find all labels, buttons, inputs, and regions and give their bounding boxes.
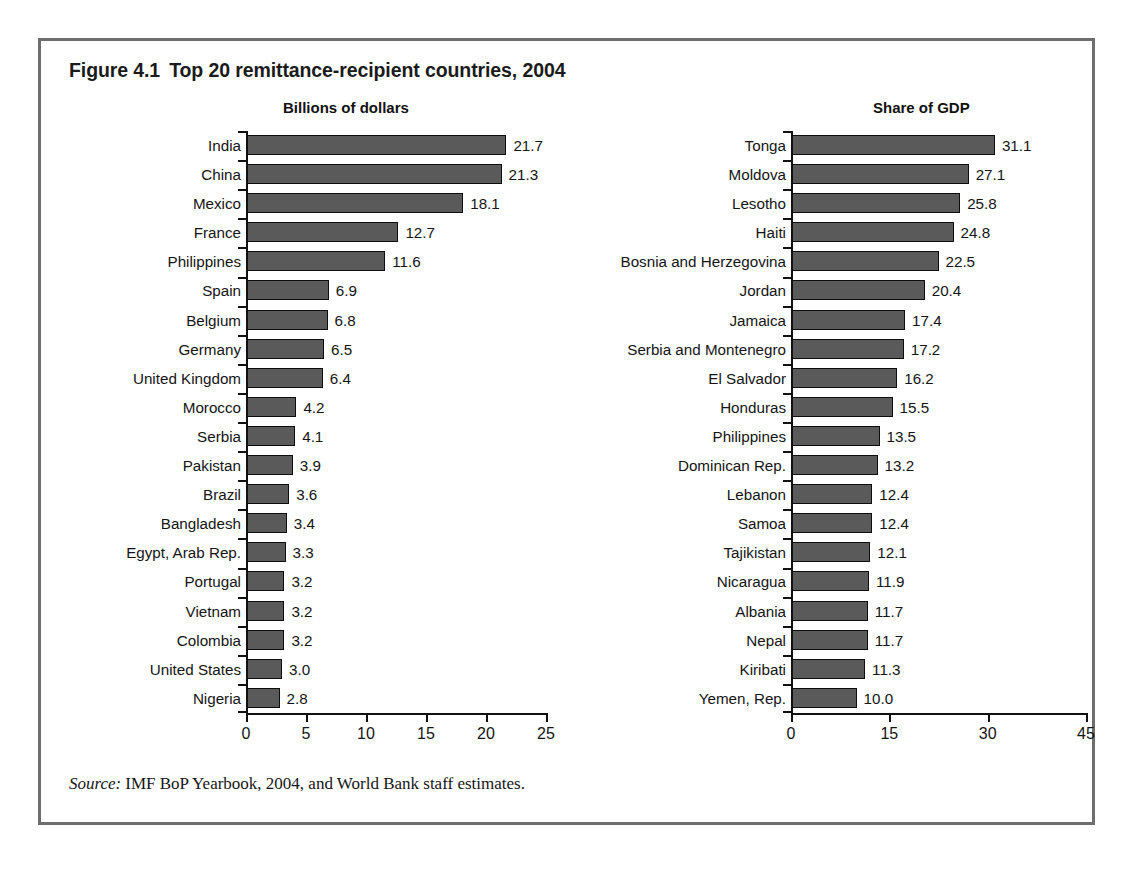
category-tick xyxy=(783,451,791,453)
bar-value-label: 21.7 xyxy=(513,131,543,160)
bar-category-label: Tajikistan xyxy=(561,538,786,567)
category-tick xyxy=(238,306,246,308)
category-tick xyxy=(783,597,791,599)
bar-category-label: Morocco xyxy=(51,393,241,422)
category-tick xyxy=(783,568,791,570)
bar xyxy=(246,222,398,242)
bar-value-label: 24.8 xyxy=(961,218,991,247)
bar xyxy=(246,601,284,621)
category-tick xyxy=(238,480,246,482)
bar-track: 21.7 xyxy=(246,131,551,160)
bar-row: El Salvador16.2 xyxy=(561,364,1091,393)
bar-value-label: 12.4 xyxy=(879,509,909,538)
category-tick xyxy=(783,422,791,424)
category-tick xyxy=(238,684,246,686)
bar-track: 3.9 xyxy=(246,451,551,480)
bar xyxy=(791,455,878,475)
category-tick xyxy=(238,335,246,337)
category-tick xyxy=(238,711,246,713)
bar-track: 11.6 xyxy=(246,247,551,276)
value-tick-label: 15 xyxy=(880,725,898,743)
bar xyxy=(791,397,893,417)
bar-value-label: 17.2 xyxy=(911,335,941,364)
bar xyxy=(246,251,385,271)
bar-category-label: India xyxy=(51,131,241,160)
bar-track: 6.8 xyxy=(246,306,551,335)
bar xyxy=(246,135,506,155)
bar xyxy=(246,484,289,504)
category-tick xyxy=(238,538,246,540)
value-tick xyxy=(306,713,308,722)
bar-track: 4.2 xyxy=(246,393,551,422)
bar-row: India21.7 xyxy=(51,131,551,160)
bar-row: Serbia4.1 xyxy=(51,422,551,451)
bar-row: Philippines13.5 xyxy=(561,422,1091,451)
bar-row: Jamaica17.4 xyxy=(561,306,1091,335)
category-axis-billions xyxy=(246,131,248,713)
category-tick xyxy=(783,480,791,482)
bar-track: 15.5 xyxy=(791,393,1091,422)
bar-value-label: 4.1 xyxy=(302,422,323,451)
value-axis-billions: 0510152025 xyxy=(246,713,546,715)
bar xyxy=(246,542,286,562)
bar xyxy=(791,280,925,300)
bar-row: China21.3 xyxy=(51,160,551,189)
bar-track: 4.1 xyxy=(246,422,551,451)
bar-category-label: Nicaragua xyxy=(561,567,786,596)
category-tick xyxy=(238,277,246,279)
bar-category-label: Lesotho xyxy=(561,189,786,218)
bar-value-label: 6.4 xyxy=(330,364,351,393)
value-tick-label: 45 xyxy=(1077,725,1095,743)
bar-value-label: 10.0 xyxy=(864,684,894,713)
category-tick xyxy=(783,335,791,337)
bar-value-label: 12.7 xyxy=(405,218,435,247)
bar-value-label: 3.2 xyxy=(291,567,312,596)
bar-category-label: Colombia xyxy=(51,626,241,655)
bar-row: United States3.0 xyxy=(51,655,551,684)
bar-category-label: Samoa xyxy=(561,509,786,538)
bar-category-label: Mexico xyxy=(51,189,241,218)
bar-value-label: 12.4 xyxy=(879,480,909,509)
bar-row: Portugal3.2 xyxy=(51,567,551,596)
figure-title-text: Top 20 remittance-recipient countries, 2… xyxy=(169,59,565,81)
bar-rows-billions: India21.7China21.3Mexico18.1France12.7Ph… xyxy=(51,131,551,713)
bar-track: 6.5 xyxy=(246,335,551,364)
bar xyxy=(246,339,324,359)
bar-track: 12.4 xyxy=(791,509,1091,538)
bar-value-label: 22.5 xyxy=(946,247,976,276)
bar-value-label: 3.6 xyxy=(296,480,317,509)
category-tick xyxy=(783,131,791,133)
bar-category-label: Dominican Rep. xyxy=(561,451,786,480)
bar-value-label: 6.5 xyxy=(331,335,352,364)
category-tick xyxy=(783,247,791,249)
value-tick-label: 10 xyxy=(357,725,375,743)
value-tick-label: 0 xyxy=(787,725,796,743)
category-tick xyxy=(783,189,791,191)
bar-value-label: 27.1 xyxy=(976,160,1006,189)
bar-category-label: Moldova xyxy=(561,160,786,189)
bar xyxy=(791,164,969,184)
bar-row: Moldova27.1 xyxy=(561,160,1091,189)
bar-row: Nigeria2.8 xyxy=(51,684,551,713)
figure-number: Figure 4.1 xyxy=(69,59,160,81)
bar-row: France12.7 xyxy=(51,218,551,247)
bar-value-label: 20.4 xyxy=(932,276,962,305)
bar-row: Haiti24.8 xyxy=(561,218,1091,247)
bar-value-label: 18.1 xyxy=(470,189,500,218)
bar-track: 11.3 xyxy=(791,655,1091,684)
source-label: Source: xyxy=(69,774,121,793)
category-tick xyxy=(238,451,246,453)
value-tick xyxy=(988,713,990,722)
bar-row: Colombia3.2 xyxy=(51,626,551,655)
bar-category-label: Nigeria xyxy=(51,684,241,713)
bar-track: 12.4 xyxy=(791,480,1091,509)
bar-category-label: Philippines xyxy=(51,247,241,276)
bar-value-label: 4.2 xyxy=(303,393,324,422)
bar-value-label: 11.7 xyxy=(875,597,903,626)
category-axis-share-of-gdp xyxy=(791,131,793,713)
category-tick xyxy=(238,218,246,220)
bar-category-label: Brazil xyxy=(51,480,241,509)
category-tick xyxy=(783,306,791,308)
bar-category-label: Tonga xyxy=(561,131,786,160)
bar-track: 11.9 xyxy=(791,567,1091,596)
